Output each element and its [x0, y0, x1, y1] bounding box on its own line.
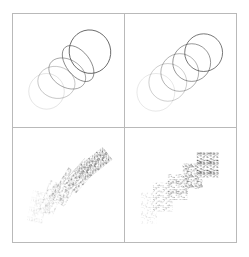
panel-bottom-right-canvas: [125, 128, 237, 242]
shape-3: [43, 52, 91, 96]
shape-5: [196, 153, 218, 178]
shape-5: [184, 34, 222, 72]
shape-5: [64, 25, 116, 78]
shape-3: [160, 54, 198, 92]
panel-top-right-canvas: [125, 14, 237, 127]
shape-1: [29, 73, 65, 109]
panel-grid: [12, 13, 237, 243]
shape-4: [56, 40, 100, 87]
panel-bottom-left: [13, 128, 125, 242]
panel-top-left-canvas: [13, 14, 124, 127]
panel-top-right: [125, 14, 237, 128]
shape-1: [136, 73, 174, 111]
figure-root: [0, 0, 249, 257]
panel-top-left: [13, 14, 125, 128]
shape-4: [172, 44, 210, 82]
panel-bottom-left-canvas: [13, 128, 124, 242]
panel-bottom-right: [125, 128, 237, 242]
shape-2: [148, 64, 186, 102]
